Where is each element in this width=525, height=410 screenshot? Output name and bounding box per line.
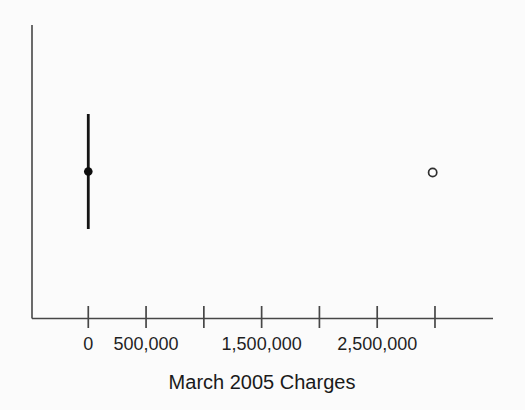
scanned-figure-page: 0500,0001,500,0002,500,000 March 2005 Ch… [0,0,525,410]
boxplot-canvas: 0500,0001,500,0002,500,000 March 2005 Ch… [0,0,525,410]
outlier-point [429,168,437,176]
median-dot [84,167,93,176]
x-tick-label: 0 [83,334,93,354]
x-ticks-layer: 0500,0001,500,0002,500,000 [83,306,435,354]
boxplot-figure: 0500,0001,500,0002,500,000 March 2005 Ch… [0,0,525,410]
x-tick-label: 500,000 [114,334,179,354]
axes-layer [32,25,493,319]
x-axis-title: March 2005 Charges [169,371,356,393]
x-tick-label: 1,500,000 [222,334,302,354]
x-tick-label: 2,500,000 [337,334,417,354]
box-data-layer [84,114,437,229]
